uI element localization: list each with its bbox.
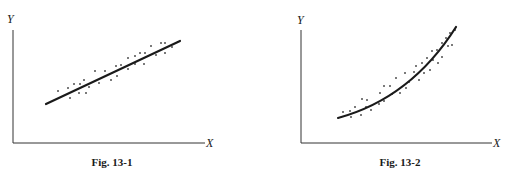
- data-point: [79, 83, 81, 85]
- data-point: [383, 85, 385, 87]
- data-points: [342, 29, 456, 118]
- data-point: [144, 52, 146, 54]
- data-point: [127, 57, 129, 59]
- y-axis-label: Y: [297, 14, 304, 26]
- data-point: [150, 45, 152, 47]
- data-point: [441, 56, 443, 58]
- data-point: [423, 72, 425, 74]
- data-point: [436, 49, 438, 51]
- data-point: [405, 87, 407, 89]
- data-point: [379, 92, 381, 94]
- data-point: [116, 75, 118, 77]
- data-point: [120, 64, 122, 66]
- data-point: [426, 57, 428, 59]
- data-point: [94, 70, 96, 72]
- data-point: [421, 62, 423, 64]
- data-point: [399, 92, 401, 94]
- data-point: [447, 45, 449, 47]
- data-point: [360, 114, 362, 116]
- data-point: [342, 111, 344, 113]
- data-point: [67, 87, 69, 89]
- data-point: [429, 69, 431, 71]
- data-point: [451, 44, 453, 46]
- data-point: [395, 77, 397, 79]
- data-point: [354, 106, 356, 108]
- data-point: [69, 97, 71, 99]
- data-point: [164, 42, 166, 44]
- data-point: [445, 37, 447, 39]
- data-point: [171, 46, 173, 48]
- data-point: [366, 99, 368, 101]
- data-point: [418, 79, 420, 81]
- scatter-plot-curvilinear: [260, 0, 517, 180]
- data-point: [361, 98, 363, 100]
- data-point: [115, 65, 117, 67]
- figure-13-1: Y X Fig. 13-1: [0, 0, 260, 180]
- data-point: [83, 79, 85, 81]
- data-point: [370, 109, 372, 111]
- y-axis-label: Y: [7, 13, 14, 25]
- data-point: [349, 110, 351, 112]
- figure-13-2: Y X Fig. 13-2: [260, 0, 517, 180]
- data-point: [431, 50, 433, 52]
- data-point: [78, 92, 80, 94]
- data-point: [415, 65, 417, 67]
- data-point: [404, 72, 406, 74]
- data-point: [88, 86, 90, 88]
- data-point: [164, 52, 166, 54]
- data-point: [110, 79, 112, 81]
- figure-caption: Fig. 13-1: [92, 156, 133, 168]
- data-point: [350, 116, 352, 118]
- x-axis-label: X: [206, 137, 213, 149]
- data-point: [85, 92, 87, 94]
- data-point: [413, 71, 415, 73]
- data-point: [155, 54, 157, 56]
- data-point: [98, 82, 100, 84]
- scatter-plot-linear: [0, 0, 260, 180]
- data-point: [378, 103, 380, 105]
- regression-line: [46, 41, 180, 104]
- data-point: [134, 55, 136, 57]
- figure-caption: Fig. 13-2: [380, 156, 421, 168]
- data-point: [383, 100, 385, 102]
- data-point: [389, 85, 391, 87]
- data-point: [73, 83, 75, 85]
- data-point: [104, 70, 106, 72]
- data-point: [160, 42, 162, 44]
- x-axis-label: X: [493, 137, 500, 149]
- data-point: [143, 63, 145, 65]
- regression-curve: [338, 27, 456, 118]
- data-point: [127, 68, 129, 70]
- data-point: [57, 90, 59, 92]
- data-point: [441, 42, 443, 44]
- data-point: [437, 62, 439, 64]
- data-point: [139, 52, 141, 54]
